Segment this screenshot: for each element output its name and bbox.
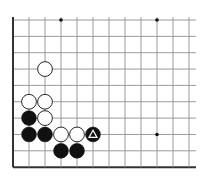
star-point (155, 18, 159, 22)
black-stone-body (70, 143, 85, 158)
white-stone-body (38, 62, 53, 77)
black-stone (54, 143, 69, 158)
white-stone-body (70, 127, 85, 142)
black-stone (22, 111, 37, 126)
black-stone-body (22, 127, 37, 142)
star-point (155, 133, 159, 137)
white-stone (38, 62, 53, 77)
white-stone-body (38, 94, 53, 109)
black-stone-body (54, 143, 69, 158)
board-grid (13, 17, 196, 167)
white-stone (38, 111, 53, 126)
white-stone (38, 94, 53, 109)
white-stone (54, 127, 69, 142)
white-stone (22, 94, 37, 109)
star-point (59, 18, 63, 22)
black-stone (70, 143, 85, 158)
white-stone-body (22, 94, 37, 109)
white-stone-body (38, 111, 53, 126)
black-stone-body (22, 111, 37, 126)
black-stone-body (38, 127, 53, 142)
white-stone-body (54, 127, 69, 142)
white-stone (70, 127, 85, 142)
go-board (0, 0, 209, 180)
black-stone (22, 127, 37, 142)
black-stone (38, 127, 53, 142)
black-stone (86, 127, 101, 142)
